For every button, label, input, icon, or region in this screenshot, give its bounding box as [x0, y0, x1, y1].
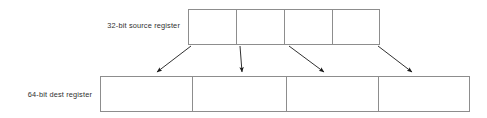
source-register-cell-1: [237, 10, 285, 44]
dest-register-box: [100, 76, 470, 112]
source-register-cell-0: [189, 10, 237, 44]
source-register-cell-2: [285, 10, 333, 44]
expansion-arrow-3: [378, 46, 412, 72]
source-register-cell-3: [333, 10, 379, 44]
register-expansion-diagram: 32-bit source register 64-bit dest regis…: [0, 0, 487, 118]
dest-register-label: 64-bit dest register: [0, 91, 92, 98]
expansion-arrows: [157, 46, 412, 72]
expansion-arrow-2: [289, 46, 324, 72]
source-register-box: [188, 9, 380, 45]
source-register-label: 32-bit source register: [88, 22, 180, 29]
dest-register-cell-1: [193, 77, 286, 111]
expansion-arrow-0: [157, 46, 191, 72]
expansion-arrow-1: [240, 46, 242, 72]
dest-register-cell-3: [379, 77, 469, 111]
dest-register-cell-2: [287, 77, 379, 111]
dest-register-cell-0: [101, 77, 193, 111]
